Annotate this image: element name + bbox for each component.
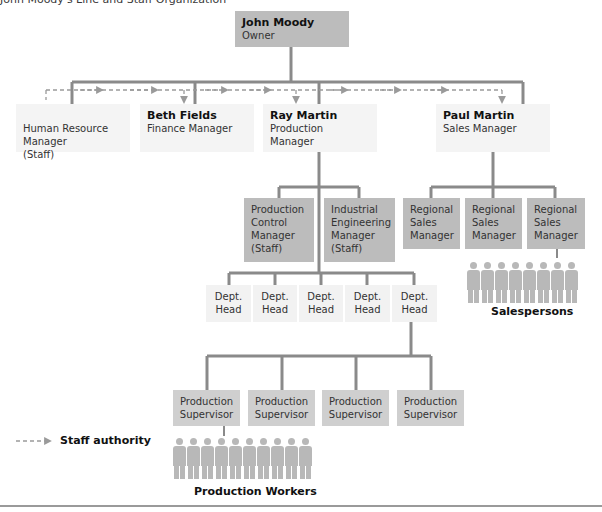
production-supervisor-role: Production Supervisor [324, 395, 387, 421]
owner-box: John Moody Owner [235, 11, 349, 47]
person-icon [565, 262, 578, 303]
legend-label: Staff authority [60, 434, 151, 447]
person-icon [523, 262, 536, 303]
person-icon [173, 438, 186, 479]
production-supervisor-role: Production Supervisor [399, 395, 462, 421]
dept-head-box: Dept. Head [299, 285, 343, 322]
person-icon [509, 262, 522, 303]
person-icon [201, 438, 214, 479]
owner-name: John Moody [242, 16, 342, 29]
hr-manager-role: Human Resource Manager (Staff) [23, 122, 123, 161]
production-control-manager-role: Production Control Manager (Staff) [251, 203, 307, 255]
legend: Staff authority [14, 434, 151, 447]
dept-head-box: Dept. Head [253, 285, 297, 322]
production-manager-name: Ray Martin [270, 109, 370, 122]
sales-manager-name: Paul Martin [443, 109, 543, 122]
owner-role: Owner [242, 29, 342, 42]
person-icon [257, 438, 270, 479]
person-icon [299, 438, 312, 479]
person-icon [187, 438, 200, 479]
dept-head-role: Dept. Head [208, 290, 249, 316]
salespersons-label: Salespersons [491, 305, 573, 318]
dept-head-role: Dept. Head [394, 290, 435, 316]
person-icon [495, 262, 508, 303]
regional-sales-manager-box: Regional Sales Manager [465, 198, 522, 249]
industrial-engineering-manager-role: Industrial Engineering Manager (Staff) [331, 203, 388, 255]
production-supervisor-role: Production Supervisor [250, 395, 313, 421]
industrial-engineering-manager-box: Industrial Engineering Manager (Staff) [324, 198, 395, 262]
production-supervisor-box: Production Supervisor [397, 390, 464, 426]
dept-head-box: Dept. Head [392, 285, 437, 322]
person-icon [271, 438, 284, 479]
finance-manager-box: Beth Fields Finance Manager [140, 104, 254, 152]
production-manager-box: Ray Martin Production Manager [263, 104, 377, 152]
person-icon [537, 262, 550, 303]
production-supervisor-box: Production Supervisor [173, 390, 240, 426]
production-supervisor-role: Production Supervisor [175, 395, 238, 421]
person-icon [215, 438, 228, 479]
dept-head-box: Dept. Head [345, 285, 390, 322]
hr-manager-box: Human Resource Manager (Staff) [16, 104, 130, 152]
salespersons-icons [467, 262, 578, 303]
finance-manager-name: Beth Fields [147, 109, 247, 122]
sales-manager-role: Sales Manager [443, 122, 543, 135]
finance-manager-role: Finance Manager [147, 122, 247, 135]
person-icon [285, 438, 298, 479]
regional-sales-manager-box: Regional Sales Manager [527, 198, 585, 249]
person-icon [481, 262, 494, 303]
dept-head-role: Dept. Head [347, 290, 388, 316]
production-supervisor-box: Production Supervisor [322, 390, 389, 426]
dept-head-role: Dept. Head [301, 290, 341, 316]
person-icon [229, 438, 242, 479]
person-icon [243, 438, 256, 479]
production-manager-role: Production Manager [270, 122, 370, 148]
sales-manager-box: Paul Martin Sales Manager [436, 104, 550, 152]
production-supervisor-box: Production Supervisor [248, 390, 315, 426]
person-icon [467, 262, 480, 303]
regional-sales-manager-role: Regional Sales Manager [410, 203, 453, 242]
production-workers-label: Production Workers [194, 485, 317, 498]
person-icon [551, 262, 564, 303]
dept-head-box: Dept. Head [206, 285, 251, 322]
regional-sales-manager-role: Regional Sales Manager [534, 203, 578, 242]
regional-sales-manager-role: Regional Sales Manager [472, 203, 515, 242]
dept-head-role: Dept. Head [255, 290, 295, 316]
production-workers-icons [173, 438, 312, 479]
production-control-manager-box: Production Control Manager (Staff) [244, 198, 314, 262]
bottom-rule [0, 505, 602, 507]
regional-sales-manager-box: Regional Sales Manager [403, 198, 460, 249]
